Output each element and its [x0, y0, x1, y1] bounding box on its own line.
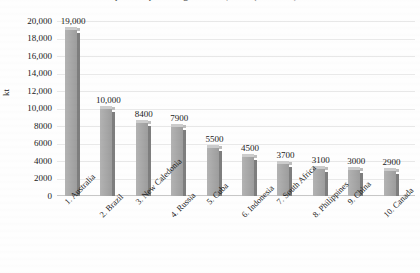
bar-top-side-face	[289, 162, 292, 165]
bar-top-side-face	[254, 155, 257, 158]
bar-top-face	[242, 154, 254, 157]
bar-top-side-face	[183, 125, 186, 128]
bar-top-face	[65, 27, 77, 30]
bar-top-face	[100, 106, 112, 109]
bar-top-face	[207, 145, 219, 148]
bar-value-label: 10,000	[82, 96, 134, 105]
y-axis-tick-label: 20,000	[6, 17, 52, 26]
bar-value-label: 5500	[189, 135, 241, 144]
bar-top-side-face	[112, 107, 115, 110]
bar-top-face	[277, 161, 289, 164]
bar	[384, 171, 399, 196]
bar-front-face	[100, 109, 112, 197]
bar-top-side-face	[325, 167, 328, 170]
bar-side-face	[396, 174, 399, 196]
bar-side-face	[112, 112, 115, 197]
x-axis-category-label: 2. Brazil	[98, 192, 125, 219]
plot-area	[57, 21, 415, 196]
bar-top-side-face	[77, 28, 80, 31]
y-axis-tick-label: 14,000	[6, 69, 52, 78]
gridline	[57, 21, 415, 22]
gridline	[57, 91, 415, 92]
y-axis-tick-label: 16,000	[6, 52, 52, 61]
bar-value-label: 2900	[366, 158, 418, 167]
bar-chart: Top nickel producing countries, 2019 (es…	[0, 0, 420, 273]
y-axis-tick-label: 6000	[6, 139, 52, 148]
bar-top-face	[384, 168, 396, 171]
y-axis-tick-label: 12,000	[6, 87, 52, 96]
gridline	[57, 56, 415, 57]
bar-value-label: 7900	[153, 114, 205, 123]
bar-front-face	[384, 171, 396, 196]
bar-side-face	[77, 33, 80, 196]
bar-front-face	[242, 157, 254, 196]
bar	[313, 169, 328, 196]
y-axis-tick-label: 8000	[6, 122, 52, 131]
chart-title: Top nickel producing countries, 2019 (es…	[105, 0, 415, 2]
bar-top-face	[136, 120, 148, 123]
y-axis-tick-label: 2000	[6, 174, 52, 183]
bar-top-face	[348, 167, 360, 170]
y-axis-tick-label: 10,000	[6, 104, 52, 113]
bar-front-face	[65, 30, 77, 196]
gridline	[57, 39, 415, 40]
y-axis-tick-label: 0	[6, 192, 52, 201]
bar-side-face	[254, 160, 257, 196]
y-axis-tick-label: 4000	[6, 157, 52, 166]
bar-top-side-face	[396, 169, 399, 172]
bar-top-side-face	[360, 168, 363, 171]
bar	[100, 109, 115, 197]
bar	[242, 157, 257, 196]
bar-value-label: 19,000	[47, 17, 99, 26]
bar-top-side-face	[219, 146, 222, 149]
gridline	[57, 74, 415, 75]
y-axis-tick-label: 18,000	[6, 34, 52, 43]
bar-side-face	[325, 172, 328, 196]
bar-top-side-face	[148, 121, 151, 124]
bar-top-face	[171, 124, 183, 127]
bar	[65, 30, 80, 196]
